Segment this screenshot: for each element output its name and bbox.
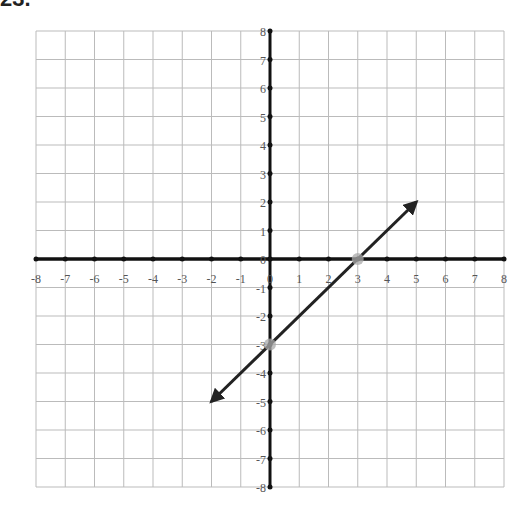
x-tick-label: -3 xyxy=(177,272,187,286)
x-tick-label: 8 xyxy=(501,272,507,286)
x-tick-label: -4 xyxy=(148,272,158,286)
y-tick-label: 0 xyxy=(260,253,266,267)
y-tick-label: 3 xyxy=(260,168,266,182)
intercept-point xyxy=(352,253,364,265)
x-tick-label: -8 xyxy=(31,272,41,286)
plotted-line xyxy=(212,202,417,402)
x-tick-label: 4 xyxy=(384,272,390,286)
x-tick-label: 7 xyxy=(472,272,478,286)
y-tick-label: -8 xyxy=(256,481,266,495)
intercept-point xyxy=(264,339,276,351)
y-tick-label: 7 xyxy=(260,54,266,68)
axes xyxy=(34,29,507,490)
y-tick-label: 2 xyxy=(260,196,266,210)
y-tick-label: -4 xyxy=(256,367,266,381)
x-tick-label: -7 xyxy=(60,272,70,286)
y-tick-label: -7 xyxy=(256,453,266,467)
coordinate-plane: -8-7-6-5-4-3-2-1012345678-8-7-6-5-4-3-2-… xyxy=(0,0,529,523)
y-tick-label: 5 xyxy=(260,111,266,125)
y-tick-label: 6 xyxy=(260,82,266,96)
x-tick-label: 6 xyxy=(443,272,449,286)
x-tick-label: -6 xyxy=(90,272,100,286)
y-tick-label: -1 xyxy=(256,282,266,296)
y-tick-label: 4 xyxy=(260,139,266,153)
x-tick-label: -2 xyxy=(207,272,217,286)
line-segment xyxy=(212,202,417,402)
x-tick-label: 1 xyxy=(296,272,302,286)
y-tick-label: -6 xyxy=(256,424,266,438)
x-tick-label: 3 xyxy=(355,272,361,286)
x-tick-label: 5 xyxy=(413,272,419,286)
y-tick-label: 1 xyxy=(260,225,266,239)
x-tick-label: 0 xyxy=(267,272,273,286)
y-tick-label: 8 xyxy=(260,25,266,39)
x-tick-label: -5 xyxy=(119,272,129,286)
y-tick-label: -2 xyxy=(256,310,266,324)
y-tick-label: -5 xyxy=(256,396,266,410)
x-tick-label: -1 xyxy=(236,272,246,286)
